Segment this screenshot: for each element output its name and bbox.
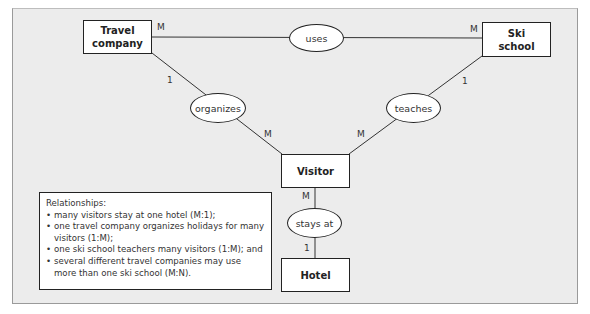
entity-label: Travel [100,24,134,37]
relationship-label: stays at [296,218,334,229]
entity-hotel: Hotel [281,258,350,292]
cardinality-label: 1 [167,75,173,85]
relationships-legend: Relationships: many visitors stay at one… [39,192,272,290]
legend-item: several different travel companies may u… [46,256,265,279]
entity-travel-company: Travel company [83,20,152,54]
relationship-stays-at: stays at [287,208,342,238]
entity-label: company [92,37,143,50]
legend-item: one travel company organizes holidays fo… [46,221,265,244]
cardinality-label: M [264,129,272,139]
cardinality-label: M [470,24,478,34]
legend-item: one ski school teachers many visitors (1… [46,244,265,256]
cardinality-label: 1 [462,76,468,86]
relationship-organizes: organizes [190,93,246,123]
entity-label: school [498,40,534,53]
cardinality-label: M [302,191,310,201]
relationship-label: teaches [395,103,432,114]
relationship-label: uses [306,33,328,44]
entity-label: Visitor [297,165,334,178]
relationship-uses: uses [289,24,344,52]
entity-label: Ski [508,27,525,40]
entity-visitor: Visitor [281,154,350,188]
entity-label: Hotel [300,269,330,282]
legend-title: Relationships: [46,198,265,210]
entity-ski-school: Ski school [482,22,551,57]
legend-item: many visitors stay at one hotel (M:1); [46,210,265,222]
relationship-label: organizes [195,103,241,114]
cardinality-label: M [357,129,365,139]
cardinality-label: 1 [304,243,310,253]
relationship-teaches: teaches [386,93,441,123]
cardinality-label: M [157,22,165,32]
